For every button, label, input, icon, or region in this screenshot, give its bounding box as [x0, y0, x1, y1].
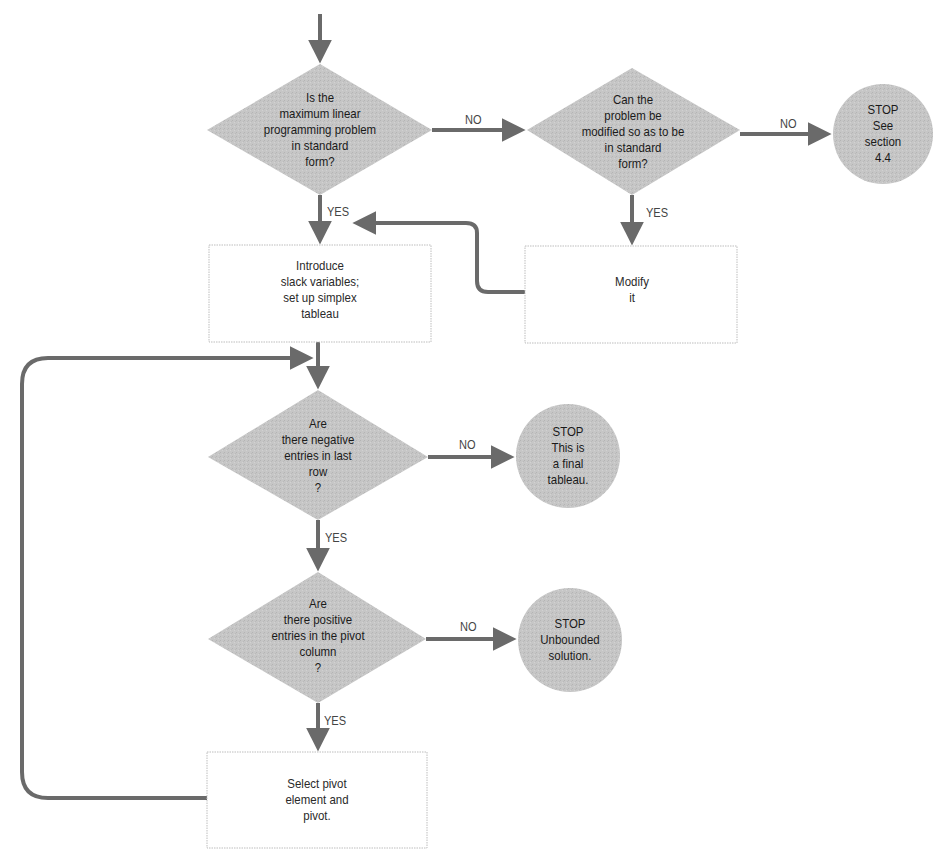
process-select-pivot-text: Select pivot element and pivot.: [224, 772, 411, 828]
line: modified so as to be: [582, 124, 685, 140]
line: Modify: [615, 274, 649, 290]
label-d3-no: NO: [459, 437, 476, 452]
label-d3-yes: YES: [325, 530, 347, 545]
line: it: [629, 290, 635, 306]
label-d1-no: NO: [465, 112, 482, 127]
line: element and: [285, 792, 348, 808]
line: Is the: [306, 90, 334, 106]
line: Are: [309, 596, 327, 612]
line: Unbounded: [540, 632, 599, 648]
line: form?: [618, 156, 647, 172]
process-introduce-slack-text: Introduce slack variables; set up simple…: [226, 254, 415, 326]
decision-standard-form-text: Is the maximum linear programming proble…: [235, 80, 405, 180]
line: in standard: [605, 140, 662, 156]
line: maximum linear: [280, 106, 361, 122]
decision-can-modify-text: Can the problem be modified so as to be …: [548, 84, 718, 180]
line: ?: [315, 660, 321, 676]
line: See: [873, 118, 893, 134]
label-d1-yes: YES: [327, 204, 349, 219]
line: 4.4: [875, 150, 891, 166]
line: column: [299, 644, 336, 660]
line: problem be: [604, 108, 661, 124]
line: STOP: [867, 102, 898, 118]
label-d4-no: NO: [460, 619, 477, 634]
line: row: [309, 464, 328, 480]
line: slack variables;: [281, 274, 359, 290]
line: pivot.: [303, 808, 330, 824]
line: Select pivot: [287, 776, 346, 792]
line: tableau: [301, 306, 339, 322]
line: set up simplex: [283, 290, 356, 306]
line: solution.: [549, 648, 592, 664]
line: Can the: [613, 92, 653, 108]
label-d2-no: NO: [780, 116, 797, 131]
line: tableau.: [548, 472, 589, 488]
line: Introduce: [296, 258, 344, 274]
label-d4-yes: YES: [324, 713, 346, 728]
line: in standard: [292, 138, 349, 154]
line: This is: [551, 440, 584, 456]
label-d2-yes: YES: [646, 205, 668, 220]
line: form?: [305, 154, 334, 170]
line: section: [865, 134, 901, 150]
decision-positive-entries-text: Are there positive entries in the pivot …: [233, 586, 403, 686]
line: there positive: [284, 612, 352, 628]
line: ?: [315, 480, 321, 496]
line: STOP: [554, 616, 585, 632]
stop-see-section-text: STOP See section 4.4: [849, 98, 917, 170]
line: Are: [309, 416, 327, 432]
decision-negative-entries-text: Are there negative entries in last row ?: [233, 406, 403, 506]
line: entries in the pivot: [271, 628, 364, 644]
line: STOP: [552, 424, 583, 440]
line: programming problem: [264, 122, 376, 138]
stop-unbounded-text: STOP Unbounded solution.: [528, 614, 613, 666]
line: there negative: [282, 432, 355, 448]
line: entries in last: [284, 448, 352, 464]
process-modify-text: Modify it: [547, 271, 717, 309]
line: a final: [553, 456, 584, 472]
stop-final-tableau-text: STOP This is a final tableau.: [534, 420, 602, 492]
